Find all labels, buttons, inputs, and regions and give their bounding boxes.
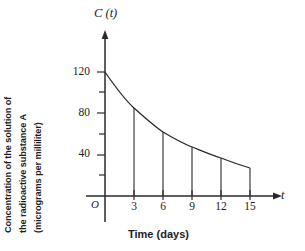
y-axis-arrowhead [102,30,109,39]
x-axis-arrowhead [273,193,282,200]
concentration-decay-curve [105,72,250,168]
drop-lines-group [134,108,250,196]
figure-container: Concentration of the solution of the rad… [0,0,305,251]
y-tick-marks [97,72,105,175]
plot-area [0,0,305,251]
axes-group [86,30,282,222]
